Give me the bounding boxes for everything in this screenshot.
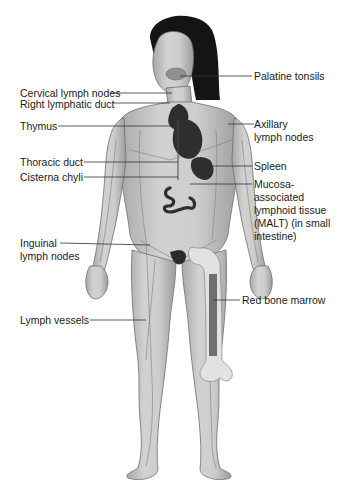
label-palatine-tonsils: Palatine tonsils — [254, 70, 325, 82]
label-malt-line4: (MALT) (in small — [254, 217, 330, 229]
label-spleen: Spleen — [254, 160, 287, 172]
label-axillary-line1: Axillary — [254, 118, 288, 130]
label-malt-line5: intestine) — [254, 230, 297, 242]
label-red-bone-marrow: Red bone marrow — [242, 294, 325, 306]
label-axillary-line2: lymph nodes — [254, 131, 314, 143]
label-right-lymphatic-duct: Right lymphatic duct — [20, 98, 115, 110]
label-malt-line1: Mucosa- — [254, 178, 294, 190]
label-thoracic-duct: Thoracic duct — [20, 156, 83, 168]
red-bone-marrow-organ — [209, 274, 217, 356]
label-inguinal-line1: Inguinal — [20, 237, 57, 249]
label-cisterna-chyli: Cisterna chyli — [20, 171, 83, 183]
label-lymph-vessels: Lymph vessels — [20, 314, 89, 326]
label-malt-line2: associated — [254, 191, 304, 203]
label-malt-line3: lymphoid tissue — [254, 204, 326, 216]
palatine-tonsils-organ — [166, 68, 186, 80]
label-thymus: Thymus — [20, 120, 57, 132]
label-inguinal-line2: lymph nodes — [20, 250, 80, 262]
